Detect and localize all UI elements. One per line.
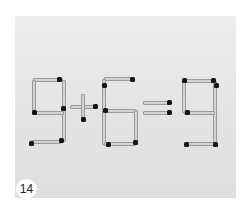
match-head (93, 104, 98, 109)
matchstick (185, 142, 215, 146)
match-head (59, 138, 64, 143)
match-head (167, 110, 172, 115)
puzzle-number-badge: 14 (16, 179, 37, 199)
match-head (213, 142, 218, 147)
match-head (29, 141, 34, 146)
match-head (102, 83, 107, 88)
match-head (167, 100, 172, 105)
match-head (133, 140, 138, 145)
match-head (130, 77, 135, 82)
matchstick (143, 111, 170, 115)
matchstick (31, 140, 62, 144)
match-head (32, 110, 37, 115)
match-head (81, 117, 86, 122)
matchstick (104, 109, 136, 113)
match-head (61, 106, 66, 111)
match-head (106, 142, 111, 147)
matchstick (32, 80, 36, 113)
matchstick (33, 111, 64, 115)
match-head (103, 108, 108, 113)
match-head (185, 110, 190, 115)
match-head (184, 142, 189, 147)
match-head (214, 83, 219, 88)
matchstick (143, 101, 170, 105)
match-head (57, 77, 62, 82)
matchstick (182, 81, 186, 113)
match-head (182, 78, 187, 83)
matchstick-photo (15, 16, 236, 198)
